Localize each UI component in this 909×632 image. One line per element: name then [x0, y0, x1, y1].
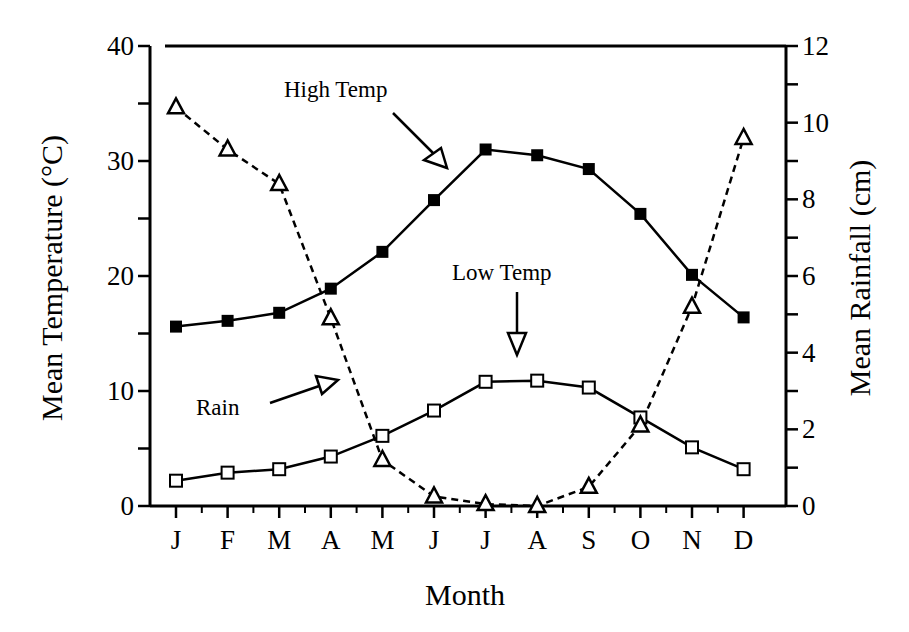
- filled-square-marker-icon: [273, 307, 285, 319]
- open-triangle-marker-icon: [426, 487, 442, 502]
- axis-ticks: 010203040024681012JFMAMJJASOND: [107, 31, 829, 555]
- open-triangle-marker-icon: [271, 175, 287, 190]
- rain-arrow-icon: [270, 376, 338, 403]
- open-triangle-marker-icon: [323, 309, 339, 324]
- x-tick-label: M: [370, 525, 394, 555]
- low-temp-line: [176, 381, 744, 481]
- open-triangle-marker-icon: [374, 451, 390, 466]
- climate-chart: 010203040024681012JFMAMJJASOND Month Mea…: [0, 0, 909, 632]
- open-triangle-marker-icon: [168, 98, 184, 113]
- open-square-marker-icon: [531, 375, 543, 387]
- x-tick-label: A: [527, 525, 547, 555]
- open-square-marker-icon: [273, 463, 285, 475]
- filled-square-marker-icon: [686, 269, 698, 281]
- rain-line: [176, 107, 744, 506]
- open-triangle-marker-icon: [684, 298, 700, 313]
- open-triangle-marker-icon: [220, 141, 236, 156]
- filled-square-marker-icon: [428, 194, 440, 206]
- filled-square-marker-icon: [583, 163, 595, 175]
- left-tick-label: 20: [107, 261, 134, 291]
- x-tick-label: O: [631, 525, 651, 555]
- left-tick-label: 10: [107, 376, 134, 406]
- y2-axis-title: Mean Rainfall (cm): [843, 160, 877, 397]
- right-tick-label: 6: [802, 261, 816, 291]
- x-tick-label: J: [171, 525, 182, 555]
- right-tick-label: 2: [802, 414, 816, 444]
- filled-square-marker-icon: [480, 144, 492, 156]
- x-axis-title: Month: [425, 578, 505, 611]
- rain-annotation: Rain: [196, 395, 240, 420]
- right-tick-label: 12: [802, 31, 829, 61]
- filled-square-marker-icon: [634, 208, 646, 220]
- x-tick-label: A: [321, 525, 341, 555]
- open-square-marker-icon: [686, 441, 698, 453]
- filled-square-marker-icon: [325, 283, 337, 295]
- data-markers: [168, 98, 752, 512]
- open-square-marker-icon: [170, 475, 182, 487]
- filled-square-marker-icon: [738, 311, 750, 323]
- open-square-marker-icon: [738, 463, 750, 475]
- high-temp-line: [176, 150, 744, 327]
- open-square-marker-icon: [325, 451, 337, 463]
- high-temp-arrow-icon: [393, 113, 447, 168]
- right-tick-label: 10: [802, 108, 829, 138]
- right-tick-label: 8: [802, 184, 816, 214]
- right-tick-label: 0: [802, 491, 816, 521]
- filled-square-marker-icon: [170, 321, 182, 333]
- open-square-marker-icon: [222, 467, 234, 479]
- left-tick-label: 30: [107, 146, 134, 176]
- high-temp-annotation: High Temp: [284, 77, 387, 102]
- x-tick-label: D: [734, 525, 754, 555]
- x-tick-label: S: [581, 525, 596, 555]
- open-square-marker-icon: [480, 376, 492, 388]
- low-temp-annotation: Low Temp: [452, 260, 552, 285]
- filled-square-marker-icon: [376, 246, 388, 258]
- right-tick-label: 4: [802, 338, 816, 368]
- open-triangle-marker-icon: [736, 129, 752, 144]
- left-tick-label: 40: [107, 31, 134, 61]
- open-square-marker-icon: [428, 405, 440, 417]
- x-tick-label: F: [220, 525, 235, 555]
- x-tick-label: N: [682, 525, 702, 555]
- left-tick-label: 0: [121, 491, 135, 521]
- data-series: [176, 107, 744, 506]
- y-axis-title: Mean Temperature (°C): [35, 135, 69, 421]
- open-square-marker-icon: [376, 430, 388, 442]
- x-tick-label: M: [267, 525, 291, 555]
- filled-square-marker-icon: [222, 315, 234, 327]
- open-square-marker-icon: [583, 382, 595, 394]
- filled-square-marker-icon: [531, 149, 543, 161]
- x-tick-label: J: [480, 525, 491, 555]
- x-tick-label: J: [429, 525, 440, 555]
- low-temp-arrow-icon: [508, 292, 526, 355]
